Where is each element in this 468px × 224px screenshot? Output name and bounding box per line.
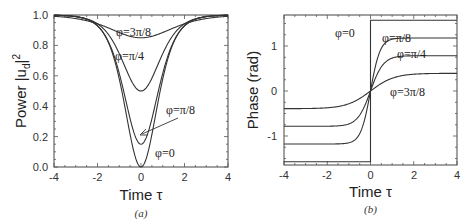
xtick-label: 2 [411,169,417,181]
ytick-label: 1 [271,40,277,52]
y-axis-label-a: Power |ud|2 [11,54,32,128]
annotation-phi-3pi8-a: φ=3π/8 [116,25,151,39]
ytick-label: 0.2 [33,131,48,143]
annotation-phi-0-b: φ=0 [335,26,355,40]
figure: 0.0 0.2 0.4 0.6 0.8 1.0 -4 -2 0 2 4 Time… [0,0,468,224]
ytick-label: -1 [267,130,277,142]
ytick-label: 0.6 [33,70,48,82]
annotation-phi-pi8-a: φ=π/8 [166,103,195,117]
xtick-label: -4 [49,171,59,183]
caption-a: (a) [135,207,148,220]
ytick-label: 1.0 [33,9,48,21]
x-axis-label-a: Time τ [120,186,163,203]
ytick-label: 0.4 [33,100,48,112]
xtick-label: 0 [367,169,373,181]
annotation-phi-pi8-b: φ=π/8 [382,31,411,45]
xtick-label: 4 [454,169,460,181]
ytick-label: 0 [271,85,277,97]
y-axis-label-b: Phase (rad) [244,51,261,129]
ytick-label: 0.8 [33,39,48,51]
xtick-label: -2 [93,171,103,183]
curves-b [284,20,457,161]
annotation-arrow [142,118,178,134]
annotation-phi-pi4-b: φ=π/4 [397,47,426,61]
xtick-label: 2 [181,171,187,183]
xtick-label: 4 [225,171,231,183]
xtick-label: -2 [322,169,332,181]
xtick-label: 0 [138,171,144,183]
caption-b: (b) [364,203,377,216]
annotation-phi-0-a: φ=0 [155,146,175,160]
panel-b: 1 0 -1 -4 -2 0 2 4 Time τ Phase (rad) (b… [244,15,460,216]
x-axis-label-b: Time τ [349,183,392,200]
annotation-phi-3pi8-b: φ=3π/8 [390,85,425,99]
xtick-label: -4 [279,169,289,181]
annotation-phi-pi4-a: φ=π/4 [115,49,144,63]
ytick-label: 0.0 [33,161,48,173]
panel-a: 0.0 0.2 0.4 0.6 0.8 1.0 -4 -2 0 2 4 Time… [11,9,231,220]
